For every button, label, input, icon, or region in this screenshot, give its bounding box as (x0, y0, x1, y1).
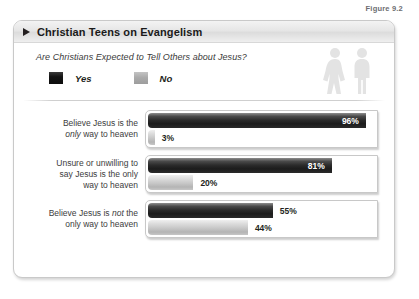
legend-item-no: No (134, 72, 173, 84)
legend-swatch-no (134, 72, 148, 84)
bar-chart: Believe Jesus is theonly way to heaven 9… (14, 101, 394, 238)
bar-value-no: 44% (255, 223, 272, 233)
page-title: Christian Teens on Evangelism (37, 26, 202, 38)
row-label: Believe Jesus is theonly way to heaven (14, 118, 145, 140)
legend-label-yes: Yes (75, 73, 92, 84)
bar-value-no: 3% (162, 133, 174, 143)
legend-block: Are Christians Expected to Tell Others a… (14, 43, 394, 100)
bar-yes: 55% (148, 203, 273, 218)
bar-yes: 81% (148, 158, 332, 173)
bar-value-yes: 55% (280, 206, 297, 216)
legend-item-yes: Yes (49, 72, 92, 84)
triangle-right-icon (23, 28, 30, 36)
bar-no: 20% (148, 175, 193, 190)
two-people-icon (318, 46, 380, 96)
row-label: Unsure or unwilling tosay Jesus is the o… (14, 158, 145, 191)
row-label: Believe Jesus is not theonly way to heav… (14, 208, 145, 230)
bar-value-yes: 96% (342, 116, 359, 126)
bar-yes: 96% (148, 113, 366, 128)
chart-card: Christian Teens on Evangelism Are Christ… (13, 20, 395, 278)
legend-label-no: No (160, 73, 173, 84)
chart-row: Unsure or unwilling tosay Jesus is the o… (14, 155, 378, 193)
chart-row: Believe Jesus is theonly way to heaven 9… (14, 110, 378, 148)
bar-track: 81% 20% (145, 155, 378, 193)
bar-no: 44% (148, 220, 248, 235)
bar-value-yes: 81% (308, 161, 325, 171)
legend-swatch-yes (49, 72, 63, 84)
bar-no: 3% (148, 130, 155, 145)
figure-caption: Figure 9.2 (366, 4, 403, 13)
bar-track: 55% 44% (145, 200, 378, 238)
bar-track: 96% 3% (145, 110, 378, 148)
card-header: Christian Teens on Evangelism (14, 21, 394, 43)
chart-row: Believe Jesus is not theonly way to heav… (14, 200, 378, 238)
bar-value-no: 20% (200, 178, 217, 188)
